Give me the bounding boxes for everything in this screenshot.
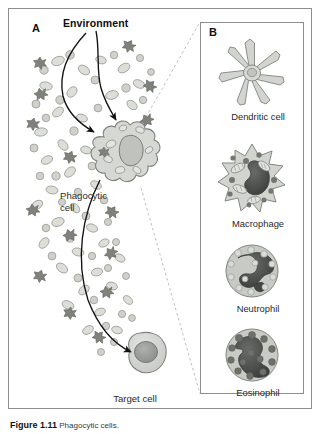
neutrophil-illustration bbox=[226, 245, 278, 297]
figure-caption-text: Phagocytic cells. bbox=[59, 421, 119, 430]
environment-label: Environment bbox=[63, 17, 128, 29]
target-cell-label: Target cell bbox=[95, 393, 175, 405]
panel-b-letter: B bbox=[209, 26, 217, 38]
panel-a-letter: A bbox=[32, 22, 40, 34]
figure-caption-number: Figure 1.11 bbox=[10, 420, 57, 430]
dendritic-cell-illustration bbox=[219, 39, 284, 105]
macrophage-label: Macrophage bbox=[203, 218, 313, 229]
figure-caption: Figure 1.11 Phagocytic cells. bbox=[10, 420, 320, 430]
phagocytic-cell bbox=[91, 121, 160, 181]
neutrophil-label: Neutrophil bbox=[203, 303, 313, 314]
figure-artwork bbox=[0, 0, 323, 434]
dendritic-cell-label: Dendritic cell bbox=[203, 111, 313, 122]
target-cell bbox=[129, 332, 167, 372]
phagocytic-cell-label: Phagocytic cell bbox=[60, 190, 130, 213]
eosinophil-illustration bbox=[226, 329, 278, 381]
macrophage-illustration bbox=[218, 144, 285, 212]
eosinophil-label: Eosinophil bbox=[203, 387, 313, 398]
